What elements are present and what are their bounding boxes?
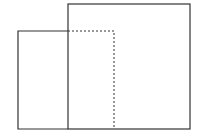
- small-rectangle-visible-edges: [18, 31, 68, 129]
- overlapping-rectangles-diagram: [0, 0, 198, 140]
- small-rectangle-hidden-edges: [68, 31, 114, 129]
- large-rectangle: [68, 4, 190, 129]
